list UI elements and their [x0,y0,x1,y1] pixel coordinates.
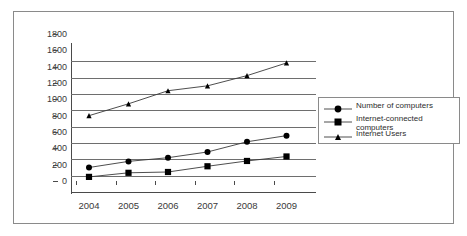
series-container [71,45,316,192]
legend-marker-triangle-icon [323,130,353,144]
chart-figure: 180016001400120010008006004002000 200420… [0,0,467,236]
y-axis-tick [53,99,58,100]
gridline [71,192,316,193]
x-axis-tick-label: 2009 [276,200,297,211]
x-axis-tick [76,181,77,185]
x-axis-tick-label: 2005 [118,200,139,211]
x-axis-tick [155,181,156,185]
x-axis-tick-label: 2007 [197,200,218,211]
series-triangle [86,60,289,118]
y-axis-tick [53,34,58,35]
x-axis-labels: 200420052006200720082009 [14,200,467,214]
y-axis-tick-label: 0 [62,177,67,186]
chart-frame: 180016001400120010008006004002000 200420… [13,11,454,224]
y-axis-tick [53,132,58,133]
y-axis-tick [53,50,58,51]
y-axis-tick [53,165,58,166]
y-axis-tick [53,67,58,68]
series-diamond [86,133,290,171]
chart-legend: Number of computersInternet-connected co… [318,97,460,144]
y-axis-tick [53,181,58,182]
legend-label: Number of computers [356,102,433,111]
legend-marker-diamond-icon [323,102,353,116]
series-square [86,153,290,180]
legend-marker-square-icon [323,115,353,129]
x-axis-tick [274,181,275,185]
y-axis-tick [53,148,58,149]
y-axis-tick [53,116,58,117]
x-axis-tick-label: 2004 [78,200,99,211]
x-axis-tick [116,181,117,185]
x-axis-tick [234,181,235,185]
x-axis-tick-label: 2008 [236,200,257,211]
plot-area [71,45,316,192]
legend-label: Internet Users [356,130,406,139]
y-axis-tick [53,83,58,84]
x-axis-tick-label: 2006 [157,200,178,211]
x-axis-tick [195,181,196,185]
